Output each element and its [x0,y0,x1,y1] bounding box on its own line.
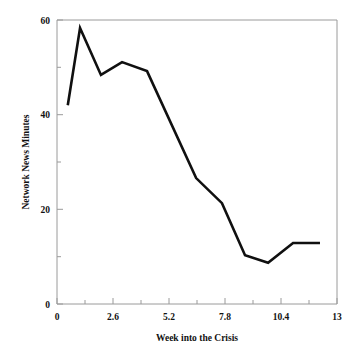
x-tick-label-2.6: 2.6 [107,312,119,322]
x-tick-label-13: 13 [332,312,342,322]
x-tick-label-0: 0 [55,312,60,322]
y-tick-label-40: 40 [41,110,51,120]
x-axis-title: Week into the Crisis [156,333,238,343]
y-tick-label-20: 20 [41,205,51,215]
chart-figure: 0 20 40 60 0 2.6 5.2 7.8 10.4 13 Week in… [0,0,357,356]
x-tick-label-5.2: 5.2 [163,312,175,322]
x-tick-label-7.8: 7.8 [219,312,231,322]
chart-background [0,0,357,356]
x-tick-label-10.4: 10.4 [273,312,290,322]
y-tick-label-60: 60 [41,16,51,26]
y-axis-title: Network News Minutes [21,114,31,209]
y-tick-label-0: 0 [45,300,50,310]
line-chart: 0 20 40 60 0 2.6 5.2 7.8 10.4 13 Week in… [0,0,357,356]
